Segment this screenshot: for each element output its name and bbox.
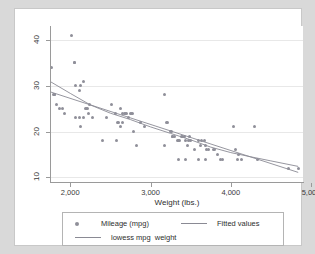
x-axis-line bbox=[50, 182, 304, 183]
y-tick-label: 20 bbox=[32, 121, 41, 141]
y-tick-label: 40 bbox=[32, 29, 41, 49]
y-tick bbox=[46, 132, 50, 133]
data-point bbox=[236, 158, 239, 161]
data-point bbox=[61, 107, 64, 110]
legend-label-mileage: Mileage (mpg) bbox=[101, 219, 149, 228]
data-point bbox=[170, 130, 173, 133]
y-axis-line bbox=[50, 26, 51, 183]
legend-entry-mileage: Mileage (mpg) bbox=[75, 219, 149, 228]
y-tick bbox=[46, 86, 50, 87]
x-tick bbox=[311, 183, 312, 187]
data-point bbox=[203, 139, 206, 142]
line-marker-icon-2 bbox=[75, 237, 101, 238]
data-point bbox=[63, 112, 66, 115]
data-point bbox=[240, 158, 243, 161]
data-point bbox=[125, 112, 128, 115]
data-point bbox=[199, 144, 202, 147]
y-tick-label: 30 bbox=[32, 75, 41, 95]
data-point bbox=[166, 121, 169, 124]
data-point bbox=[297, 167, 300, 170]
data-point bbox=[221, 158, 224, 161]
data-point bbox=[87, 112, 90, 115]
data-point bbox=[197, 158, 200, 161]
legend-entry-fitted: Fitted values bbox=[181, 219, 260, 228]
x-tick-label: 4,000 bbox=[211, 188, 251, 197]
data-point bbox=[121, 121, 124, 124]
x-tick bbox=[231, 183, 232, 187]
y-tick-label: 10 bbox=[32, 167, 41, 187]
data-point bbox=[55, 103, 58, 106]
plot-area bbox=[51, 26, 303, 182]
data-point bbox=[173, 135, 176, 138]
data-point bbox=[88, 103, 91, 106]
y-tick bbox=[46, 177, 50, 178]
chart-legend: Mileage (mpg) Fitted values lowess mpg w… bbox=[62, 212, 284, 246]
data-point bbox=[184, 158, 187, 161]
data-point bbox=[114, 112, 117, 115]
data-point bbox=[78, 89, 81, 92]
data-point bbox=[287, 167, 290, 170]
data-point bbox=[78, 116, 81, 119]
series-line bbox=[51, 82, 298, 166]
y-tick bbox=[46, 40, 50, 41]
x-tick bbox=[151, 183, 152, 187]
data-point bbox=[177, 158, 180, 161]
x-tick bbox=[70, 183, 71, 187]
chart-screenshot: 10203040 2,0003,0004,0005,000 Weight (lb… bbox=[0, 0, 315, 254]
legend-entry-lowess: lowess mpg weight bbox=[75, 233, 176, 242]
x-axis-title: Weight (lbs.) bbox=[51, 198, 303, 207]
data-point bbox=[183, 135, 186, 138]
data-point bbox=[86, 107, 89, 110]
data-point bbox=[131, 112, 134, 115]
data-point bbox=[82, 80, 85, 83]
graph-region: 10203040 2,0003,0004,0005,000 Weight (lb… bbox=[14, 8, 302, 246]
legend-label-lowess: lowess mpg weight bbox=[111, 233, 176, 242]
x-tick-label: 5,000 bbox=[291, 188, 315, 197]
data-point bbox=[186, 144, 189, 147]
data-point bbox=[256, 158, 259, 161]
x-tick-label: 2,000 bbox=[50, 188, 90, 197]
legend-label-fitted: Fitted values bbox=[217, 219, 260, 228]
data-point bbox=[117, 121, 120, 124]
line-marker-icon bbox=[181, 223, 207, 224]
data-point bbox=[216, 153, 219, 156]
data-point bbox=[119, 107, 122, 110]
data-point bbox=[73, 61, 76, 64]
circle-marker-icon bbox=[75, 222, 79, 226]
data-point bbox=[188, 135, 191, 138]
x-tick-label: 3,000 bbox=[131, 188, 171, 197]
data-point bbox=[82, 116, 85, 119]
